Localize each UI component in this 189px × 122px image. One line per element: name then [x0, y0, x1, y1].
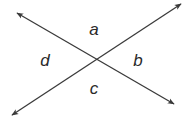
angle-label-a: a [89, 20, 98, 39]
angle-label-d: d [40, 51, 50, 70]
angle-label-b: b [133, 51, 142, 70]
angle-label-c: c [90, 79, 99, 98]
intersecting-lines-diagram: a b c d [0, 0, 189, 122]
